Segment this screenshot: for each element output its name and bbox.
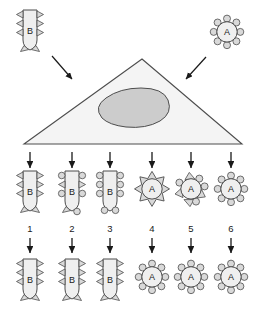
middle-item-3-label: B	[107, 187, 113, 197]
bottom-item-2-label: B	[69, 275, 75, 285]
number-label-4: 4	[149, 223, 154, 234]
number-label-3: 3	[107, 223, 112, 234]
bottom-item-1-label: B	[27, 275, 33, 285]
middle-item-6-label: A	[228, 184, 234, 194]
top-left-organism-label: B	[27, 26, 33, 36]
bottom-item-4: A	[135, 260, 169, 294]
middle-item-2-label: B	[69, 187, 75, 197]
middle-item-4-label: A	[149, 184, 155, 194]
bottom-item-5: A	[174, 260, 208, 294]
middle-item-5-label: A	[188, 184, 194, 194]
number-label-6: 6	[228, 223, 233, 234]
bottom-item-4-label: A	[149, 272, 155, 282]
middle-item-1-label: B	[27, 187, 33, 197]
number-label-1: 1	[27, 223, 32, 234]
bottom-item-5-label: A	[188, 272, 194, 282]
figure-canvas: B A B B B A	[0, 0, 263, 311]
bottom-item-6-label: A	[228, 272, 234, 282]
number-label-2: 2	[69, 223, 74, 234]
top-right-organism-a: A	[210, 15, 244, 49]
middle-item-6: A	[214, 172, 248, 206]
top-right-organism-label: A	[224, 27, 230, 37]
bottom-item-6: A	[214, 260, 248, 294]
bottom-item-3-label: B	[107, 275, 113, 285]
number-label-5: 5	[188, 223, 193, 234]
middle-item-4: A	[135, 171, 170, 206]
